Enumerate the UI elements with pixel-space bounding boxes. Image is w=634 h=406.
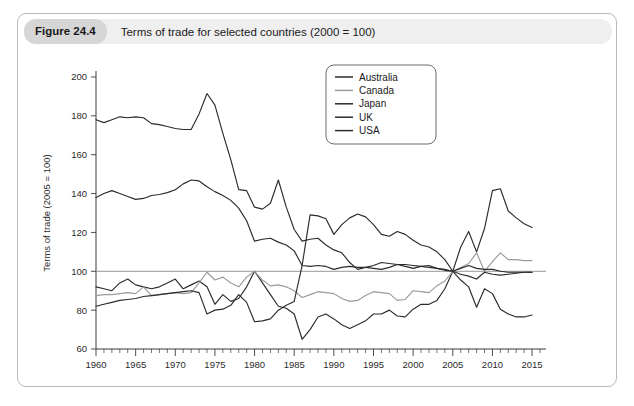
x-tick-label: 1990: [323, 359, 344, 370]
legend-label-uk[interactable]: UK: [359, 112, 373, 123]
x-tick-label: 1980: [244, 359, 265, 370]
x-tick-label: 2005: [442, 359, 463, 370]
x-tick-label: 1995: [363, 359, 384, 370]
legend-label-usa[interactable]: USA: [359, 125, 380, 136]
x-tick-label: 1960: [85, 359, 106, 370]
terms-of-trade-line-chart: 6080100120140160180200 19601965197019751…: [24, 49, 612, 381]
chart-plot-area: 6080100120140160180200 19601965197019751…: [24, 49, 612, 381]
y-axis-title: Terms of trade (2005 = 100): [41, 154, 52, 272]
y-tick-label: 180: [71, 110, 87, 121]
y-tick-label: 120: [71, 227, 87, 238]
series-line-uk: [96, 94, 532, 273]
y-tick-label: 80: [76, 305, 87, 316]
x-tick-label: 2015: [522, 359, 543, 370]
legend-label-japan[interactable]: Japan: [359, 98, 386, 109]
y-tick-label: 200: [71, 71, 87, 82]
figure-header: Figure 24.4 Terms of trade for selected …: [24, 19, 612, 44]
x-tick-label: 1985: [284, 359, 305, 370]
x-tick-label: 1970: [165, 359, 186, 370]
series-lines: [96, 94, 532, 340]
y-tick-label: 60: [76, 343, 87, 354]
figure-number-badge: Figure 24.4: [24, 19, 107, 44]
y-axis: 6080100120140160180200: [71, 71, 96, 354]
legend-label-canada[interactable]: Canada: [359, 85, 394, 96]
y-tick-label: 140: [71, 188, 87, 199]
series-line-japan: [96, 214, 532, 322]
x-tick-label: 1975: [204, 359, 225, 370]
figure-caption: Terms of trade for selected countries (2…: [107, 26, 612, 38]
y-tick-label: 100: [71, 266, 87, 277]
legend-label-australia[interactable]: Australia: [359, 72, 398, 83]
figure-panel: Figure 24.4 Terms of trade for selected …: [17, 13, 617, 387]
x-tick-label: 2010: [482, 359, 503, 370]
x-axis: 1960196519701975198019851990199520002005…: [85, 349, 546, 370]
x-tick-label: 1965: [125, 359, 146, 370]
y-tick-label: 160: [71, 149, 87, 160]
x-tick-label: 2000: [403, 359, 424, 370]
y-axis-title-text: Terms of trade (2005 = 100): [41, 154, 52, 272]
chart-legend[interactable]: AustraliaCanadaJapanUKUSA: [326, 65, 436, 144]
